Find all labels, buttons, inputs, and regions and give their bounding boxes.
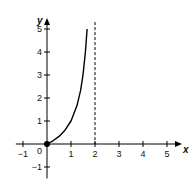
x-axis-label: x bbox=[182, 144, 189, 155]
y-tick-label: 5 bbox=[37, 24, 42, 34]
x-tick-label: 4 bbox=[140, 149, 145, 159]
y-tick-label: −1 bbox=[32, 162, 42, 172]
y-tick-label: 2 bbox=[37, 93, 42, 103]
curve-line bbox=[47, 29, 87, 144]
x-tick-label: 3 bbox=[116, 149, 121, 159]
annotations bbox=[44, 22, 95, 147]
x-tick-label: 1 bbox=[68, 149, 73, 159]
chart-figure: xy−112345−1123450 bbox=[0, 0, 191, 185]
y-tick-label: 4 bbox=[37, 47, 42, 57]
y-tick-label: 1 bbox=[37, 116, 42, 126]
x-tick-label: −1 bbox=[18, 149, 28, 159]
y-tick-label: 3 bbox=[37, 70, 42, 80]
series bbox=[47, 29, 87, 144]
x-tick-label: 5 bbox=[164, 149, 169, 159]
x-axis-arrow-icon bbox=[175, 141, 182, 147]
tick-labels: xy−112345−1123450 bbox=[18, 15, 189, 172]
y-axis-arrow-icon bbox=[44, 18, 50, 25]
origin-label: 0 bbox=[37, 146, 42, 156]
chart-svg: xy−112345−1123450 bbox=[0, 0, 191, 185]
x-tick-label: 2 bbox=[92, 149, 97, 159]
